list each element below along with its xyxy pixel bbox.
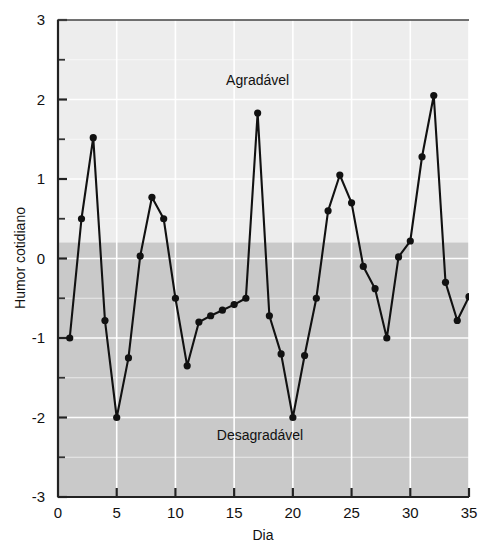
x-tick-label: 35 xyxy=(461,504,478,521)
x-tick-label: 0 xyxy=(54,504,62,521)
annotation-agradavel: Agradável xyxy=(226,72,289,88)
data-point xyxy=(442,279,449,286)
data-point xyxy=(78,215,85,222)
data-point xyxy=(360,263,367,270)
y-tick-label: -1 xyxy=(32,329,45,346)
data-point xyxy=(383,334,390,341)
data-point xyxy=(301,352,308,359)
data-point xyxy=(242,295,249,302)
data-point xyxy=(336,171,343,178)
y-tick-label: 0 xyxy=(37,250,45,267)
data-point xyxy=(172,295,179,302)
y-tick-label: -2 xyxy=(32,409,45,426)
x-tick-label: 25 xyxy=(343,504,360,521)
data-point xyxy=(231,301,238,308)
plot-shaded-band xyxy=(58,243,469,497)
data-point xyxy=(289,414,296,421)
data-point xyxy=(465,293,472,300)
data-point xyxy=(160,215,167,222)
data-point xyxy=(266,312,273,319)
data-point xyxy=(137,253,144,260)
y-tick-label: 1 xyxy=(37,170,45,187)
data-point xyxy=(254,109,261,116)
x-tick-label: 20 xyxy=(285,504,302,521)
data-point xyxy=(148,194,155,201)
data-point xyxy=(195,319,202,326)
y-axis-title: Humor cotidiano xyxy=(12,207,28,309)
y-tick-label: 2 xyxy=(37,91,45,108)
data-point xyxy=(454,317,461,324)
x-tick-label: 30 xyxy=(402,504,419,521)
data-point xyxy=(278,350,285,357)
annotation-desagradavel: Desagradável xyxy=(217,427,303,443)
data-point xyxy=(418,153,425,160)
data-point xyxy=(66,334,73,341)
data-point xyxy=(207,312,214,319)
data-point xyxy=(90,134,97,141)
x-tick-label: 10 xyxy=(167,504,184,521)
y-tick-label: -3 xyxy=(32,488,45,505)
data-point xyxy=(324,207,331,214)
data-point xyxy=(348,199,355,206)
data-point xyxy=(101,317,108,324)
data-point xyxy=(184,362,191,369)
x-axis-tick-labels: 05101520253035 xyxy=(54,504,478,521)
data-point xyxy=(219,307,226,314)
x-tick-label: 5 xyxy=(113,504,121,521)
data-point xyxy=(407,237,414,244)
x-tick-label: 15 xyxy=(226,504,243,521)
chart-figure: -3-2-10123 05101520253035 Dia Humor coti… xyxy=(0,0,493,560)
data-point xyxy=(395,253,402,260)
y-axis-tick-labels: -3-2-10123 xyxy=(32,11,45,505)
data-point xyxy=(371,285,378,292)
data-point xyxy=(313,295,320,302)
mood-line-chart: -3-2-10123 05101520253035 Dia Humor coti… xyxy=(0,0,493,560)
data-point xyxy=(113,414,120,421)
data-point xyxy=(430,92,437,99)
x-axis-title: Dia xyxy=(252,527,273,543)
y-tick-label: 3 xyxy=(37,11,45,28)
data-point xyxy=(125,354,132,361)
